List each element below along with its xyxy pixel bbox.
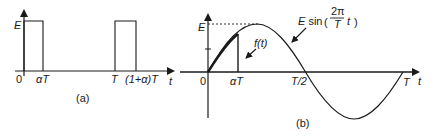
figure-a: E 0 αT T (1+α)T t (a) — [14, 11, 173, 104]
a-pulse-2 — [115, 21, 136, 71]
a-tick-1plusalphaT: (1+α)T — [125, 73, 159, 85]
b-x-label: t — [418, 75, 422, 87]
b-sine-frac-num: 2π — [331, 5, 345, 17]
a-pulse-1 — [24, 21, 43, 71]
b-sine-paren-close: ) — [354, 16, 358, 28]
a-tick-T: T — [111, 73, 119, 85]
b-f-pointer-arrow — [246, 49, 256, 58]
b-sine-pointer-arrow — [292, 28, 306, 42]
a-x-label: t — [169, 75, 173, 87]
figure-canvas: E 0 αT T (1+α)T t (a) E 0 αT T/2 T t f(t… — [0, 0, 434, 138]
b-tick-alphaT: αT — [230, 75, 244, 87]
figure-b: E 0 αT T/2 T t f(t) E sin ( 2π T t ) (b) — [180, 5, 422, 129]
b-f-of-t-curve — [208, 34, 238, 72]
a-tick-0: 0 — [16, 73, 22, 85]
b-sine-frac-den: T — [334, 18, 342, 30]
b-f-label: f(t) — [254, 37, 268, 49]
b-sine-paren-open: ( — [324, 16, 328, 28]
b-tick-T: T — [403, 76, 411, 88]
b-sine-label: E sin ( 2π T t ) — [298, 5, 358, 30]
b-tick-T-half: T/2 — [291, 75, 307, 87]
a-tick-alphaT: αT — [36, 73, 50, 85]
a-caption: (a) — [76, 92, 89, 104]
b-y-label: E — [198, 21, 206, 33]
b-caption: (b) — [296, 117, 309, 129]
b-sine-label-text: E sin — [298, 15, 322, 27]
a-y-label: E — [14, 19, 22, 31]
b-sine-t: t — [347, 15, 351, 27]
b-tick-0: 0 — [200, 75, 206, 87]
